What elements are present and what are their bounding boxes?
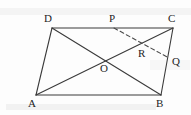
vertex-label-A: A — [28, 98, 36, 109]
vertex-label-Q: Q — [172, 56, 180, 67]
vertex-label-R: R — [138, 48, 145, 59]
vertex-label-P: P — [109, 13, 115, 24]
vertex-label-O: O — [100, 63, 108, 74]
vertex-label-B: B — [156, 98, 163, 109]
vertex-label-D: D — [44, 13, 52, 24]
geometry-figure: D P C R Q O A B — [0, 0, 191, 115]
vertex-label-C: C — [168, 13, 175, 24]
segment-AD — [36, 28, 52, 95]
